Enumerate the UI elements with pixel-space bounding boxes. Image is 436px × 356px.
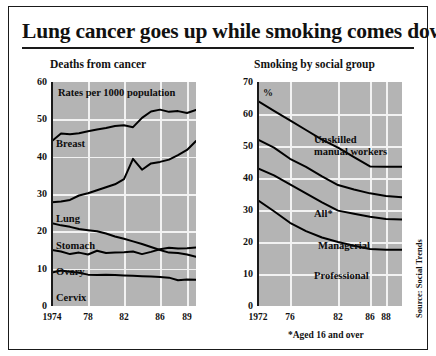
x-axis-tick-label: 82 [321,312,355,322]
series-line [52,141,196,202]
y-axis-tick-label: 60 [25,77,47,87]
y-axis-tick-label: 30 [25,189,47,199]
series-label: Managerial [318,240,370,252]
series-label: Lung [56,213,80,225]
plot-annotation-percent: % [263,87,273,98]
chart-title-smoking-by-social-group: Smoking by social group [254,58,375,70]
series-label: Ovary [56,266,85,278]
x-axis-tick-label: 88 [369,312,403,322]
x-axis-tick-label: 76 [273,312,307,322]
title-rule [22,47,414,49]
chart-title-deaths-from-cancer: Deaths from cancer [50,58,146,70]
y-axis-tick-label: 70 [231,77,253,87]
page-title: Lung cancer goes up while smoking comes … [22,16,414,46]
x-axis-tick-label: 78 [71,312,105,322]
y-axis-tick-label: 50 [25,114,47,124]
x-axis-tick-label: 1974 [35,312,69,322]
y-axis-tick-label: 40 [231,173,253,183]
y-axis-line [257,82,259,306]
series-label: All* [314,208,333,220]
y-axis-tick-label: 40 [25,152,47,162]
series-label: Breast [56,138,85,150]
series-label: Cervix [56,292,86,304]
series-line [52,110,196,141]
y-axis-tick-label: 10 [231,269,253,279]
x-axis-tick-label: 89 [170,312,204,322]
x-axis-tick-label: 1972 [241,312,275,322]
y-axis-tick-label: 50 [231,141,253,151]
series-label: Unskilledmanual workers [314,134,400,158]
series-label: Stomach [56,240,95,252]
infographic-figure: Lung cancer goes up while smoking comes … [0,0,436,356]
series-label: Professional [314,270,369,282]
y-axis-tick-label: 30 [231,205,253,215]
y-axis-line [51,82,53,306]
x-axis-tick-label: 82 [107,312,141,322]
plot-area: Unskilledmanual workersAll*ManagerialPro… [258,82,402,306]
chart-panel-deaths-from-cancer: Deaths from cancer BreastLungStomachOvar… [26,58,202,320]
chart-panel-smoking-by-social-group: Smoking by social group Unskilledmanual … [232,58,408,320]
footnote-aged-16-and-over: *Aged 16 and over [288,330,364,340]
source-credit: Source: Social Trends [414,239,424,318]
y-axis-tick-label: 20 [25,226,47,236]
y-axis-tick-label: 20 [231,237,253,247]
y-axis-tick-label: 0 [231,301,253,311]
y-axis-tick-label: 10 [25,264,47,274]
plot-annotation-rates: Rates per 1000 population [58,87,175,98]
plot-area: BreastLungStomachOvaryCervixRates per 10… [52,82,196,306]
y-axis-tick-label: 0 [25,301,47,311]
y-axis-tick-label: 60 [231,109,253,119]
